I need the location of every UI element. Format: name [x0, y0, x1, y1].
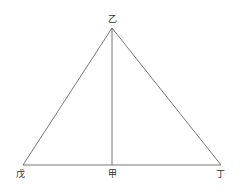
- label-left-vertex: 戊: [16, 170, 25, 179]
- triangle-figure: [0, 0, 240, 191]
- label-apex: 乙: [108, 15, 117, 24]
- label-foot: 甲: [108, 170, 117, 179]
- label-right-vertex: 丁: [216, 170, 225, 179]
- segment-left-apex: [23, 28, 112, 165]
- segment-apex-right: [112, 28, 221, 165]
- diagram-canvas: 乙 甲 戊 丁: [0, 0, 240, 191]
